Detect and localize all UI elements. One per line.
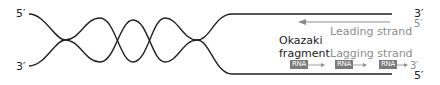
rna-primer-2: RNA <box>335 60 353 69</box>
leading-strand-label: Leading strand <box>330 26 412 37</box>
okazaki-label-line2: fragment <box>279 48 330 59</box>
rna-primer-1: RNA <box>290 60 308 69</box>
helix-drawing <box>0 0 440 85</box>
replication-fork-diagram: 5′ 3′ 3′ 5′ Leading strand Okazaki fragm… <box>0 0 440 85</box>
top-left-5prime: 5′ <box>16 8 26 19</box>
bottom-right-5prime: 5′ <box>414 70 424 81</box>
lagging-strand-label: Lagging strand <box>330 48 413 59</box>
rna-primer-3: RNA <box>379 60 397 69</box>
okazaki-label-line1: Okazaki <box>279 35 323 46</box>
bottom-left-3prime: 3′ <box>16 61 26 72</box>
leading-5prime: 5′ <box>414 18 423 29</box>
